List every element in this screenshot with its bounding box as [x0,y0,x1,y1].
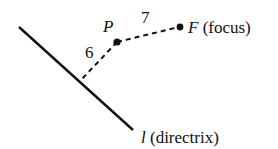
directrix-label: l (directrix) [141,129,219,146]
focus-dot [177,24,184,31]
directrix-letter: l [141,128,146,147]
focus-label: F (focus) [188,19,251,36]
distance-to-directrix-label: 6 [85,44,94,61]
focus-text: (focus) [203,18,251,37]
directrix-text: (directrix) [150,128,219,147]
point-p-label: P [103,18,113,35]
conic-directrix-diagram: P 7 6 F (focus) l (directrix) [0,0,278,149]
distance-to-focus-label: 7 [141,9,150,26]
focus-letter: F [188,18,198,37]
distance-to-focus-dashed [117,27,179,42]
point-p-dot [113,38,120,45]
